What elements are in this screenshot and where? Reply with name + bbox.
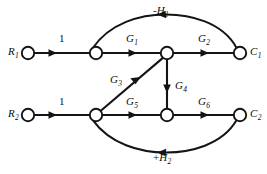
edge-n3-to-n4 — [102, 111, 161, 119]
edge-n2-to-n4-vertical — [163, 59, 171, 109]
edge-label-G4: G4 — [175, 80, 187, 91]
node-summing-bottom-left[interactable] — [90, 109, 102, 121]
edge-label-gain-one-top: 1 — [59, 33, 65, 44]
edge-label-gain-one-bottom: 1 — [59, 96, 65, 107]
arrow-head-G4 — [163, 85, 171, 94]
arrow-head-n2-C1 — [201, 49, 210, 57]
signal-flow-graph-canvas — [0, 0, 267, 174]
node-C1[interactable] — [234, 47, 246, 59]
node-label-R1: R1 — [8, 46, 18, 57]
edge-n1-to-n2 — [102, 49, 161, 57]
arrow-head-R2-n3 — [49, 111, 58, 119]
arrow-head-n1-n2 — [129, 49, 138, 57]
edge-label-G6: G6 — [198, 96, 210, 107]
node-label-R2: R2 — [8, 108, 18, 119]
node-label-C1: C1 — [250, 46, 261, 57]
edge-label-G5: G5 — [126, 96, 138, 107]
node-C2[interactable] — [234, 109, 246, 121]
arrow-head-R1-n1 — [49, 49, 58, 57]
edge-R2-to-n3 — [34, 111, 90, 119]
node-R1[interactable] — [22, 47, 34, 59]
node-R2[interactable] — [22, 109, 34, 121]
edge-label-plus-H2: +H2 — [153, 152, 171, 163]
arrow-head-n3-n4 — [129, 111, 138, 119]
edge-n4-to-C2 — [173, 111, 234, 119]
edge-label-G1: G1 — [126, 33, 138, 44]
node-label-C2: C2 — [250, 108, 261, 119]
edge-R1-to-n1 — [34, 49, 90, 57]
node-summing-top-center[interactable] — [161, 47, 173, 59]
node-summing-bottom-center[interactable] — [161, 109, 173, 121]
edge-label-minus-H1: -H1 — [153, 5, 168, 16]
edge-label-G3: G3 — [110, 74, 122, 85]
signal-flow-graph-figure: R1 C1 R2 C2 1 G1 G2 -H1 1 G3 G4 G5 G6 +H… — [0, 0, 267, 174]
arrow-head-n4-C2 — [201, 111, 210, 119]
edge-n2-to-C1 — [173, 49, 234, 57]
edge-label-G2: G2 — [198, 33, 210, 44]
node-summing-top-left[interactable] — [90, 47, 102, 59]
